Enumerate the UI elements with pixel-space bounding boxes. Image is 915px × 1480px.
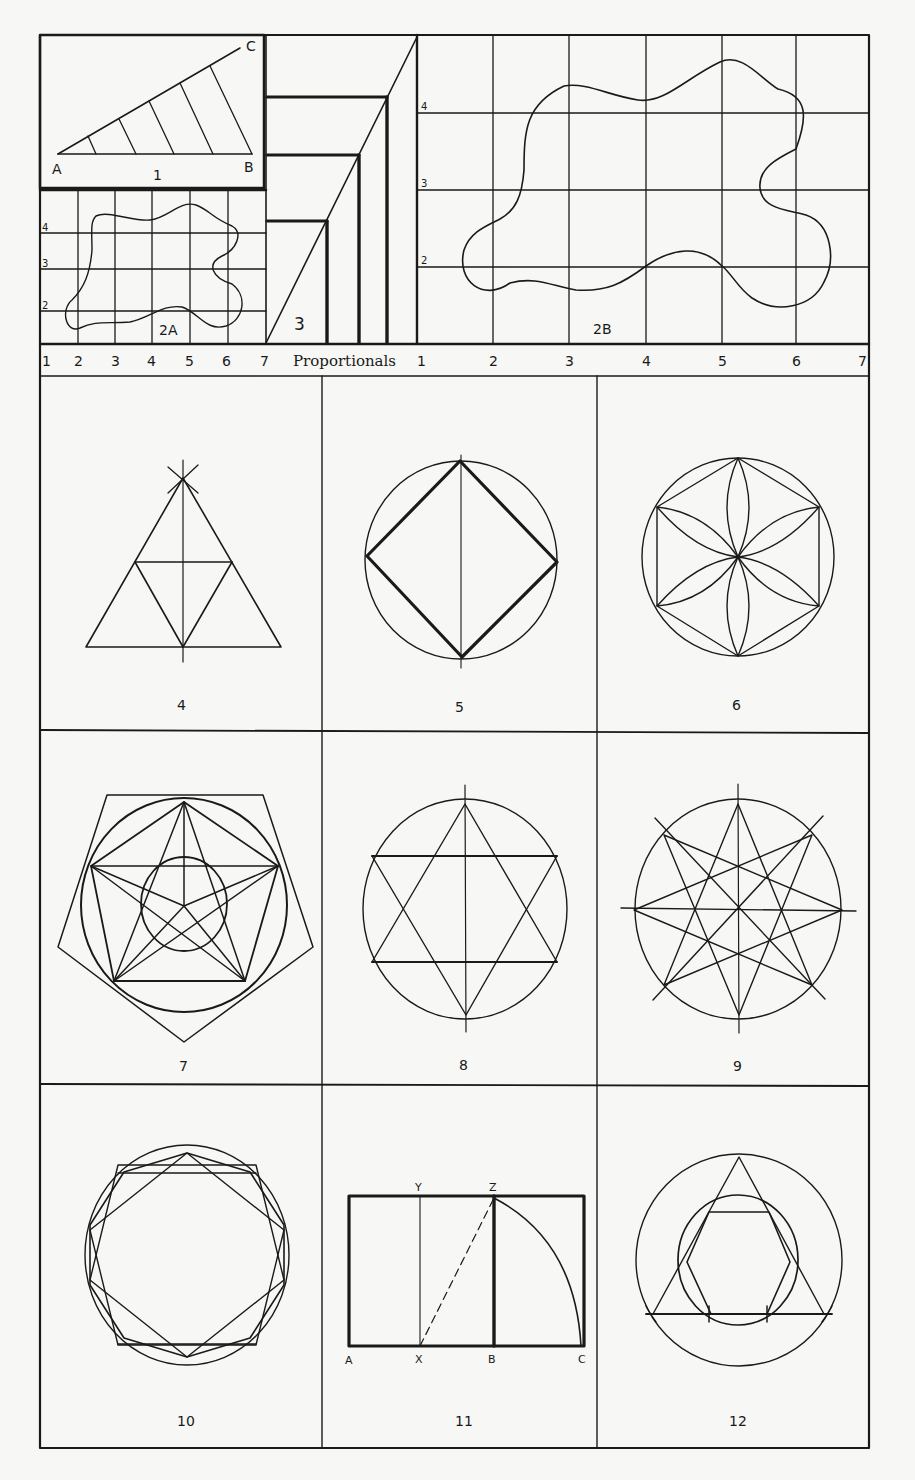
scale-left-7: 7 <box>260 353 269 369</box>
figure-6-rosette: 6 <box>642 458 834 713</box>
figure-3-panel: 3 <box>266 35 417 343</box>
scale-left-5: 5 <box>185 353 194 369</box>
scale-left-4: 4 <box>147 353 156 369</box>
fig6-number: 6 <box>732 697 741 713</box>
scale-right-2: 2 <box>489 353 498 369</box>
fig8-number: 8 <box>459 1057 468 1073</box>
figure-11-golden-rectangle: A X B C Y Z 11 <box>345 1181 586 1429</box>
scale-title: Proportionals <box>293 352 396 370</box>
fig10-number: 10 <box>177 1413 195 1429</box>
fig11-point-z: Z <box>489 1181 497 1194</box>
fig2b-row-2: 2 <box>421 255 427 266</box>
fig1-point-a: A <box>52 161 62 177</box>
scale-right-1: 1 <box>417 353 426 369</box>
figure-12-nested: 12 <box>636 1154 842 1429</box>
scale-right-7: 7 <box>858 353 867 369</box>
fig2b-number: 2B <box>593 321 612 337</box>
fig2b-row-3: 3 <box>421 178 427 189</box>
scale-left-3: 3 <box>111 353 120 369</box>
figure-8-hexagram: 8 <box>363 785 567 1073</box>
fig3-number: 3 <box>294 314 305 334</box>
scale-right-4: 4 <box>642 353 651 369</box>
scale-right-6: 6 <box>792 353 801 369</box>
scale-left-6: 6 <box>222 353 231 369</box>
fig2a-row-4: 4 <box>42 222 48 233</box>
fig5-number: 5 <box>455 699 464 715</box>
fig2a-row-3: 3 <box>42 258 48 269</box>
fig11-point-a: A <box>345 1354 353 1367</box>
scale-left-2: 2 <box>74 353 83 369</box>
proportionals-scale: 1 2 3 4 5 6 7 Proportionals 1 2 3 4 5 6 … <box>40 344 869 376</box>
fig4-number: 4 <box>177 697 186 713</box>
fig1-number: 1 <box>153 167 162 183</box>
figure-10-decagon: 10 <box>85 1145 289 1429</box>
figure-9-octagram: 9 <box>621 784 856 1074</box>
fig1-point-c: C <box>246 38 256 54</box>
scale-right-5: 5 <box>718 353 727 369</box>
figure-7-pentagram: 7 <box>58 795 313 1074</box>
fig2a-number: 2A <box>159 322 178 338</box>
fig11-number: 11 <box>455 1413 473 1429</box>
fig11-point-x: X <box>415 1353 423 1366</box>
geometry-plate: A B C 1 4 3 2 2A 3 <box>0 0 915 1480</box>
scale-right-3: 3 <box>565 353 574 369</box>
fig11-point-y: Y <box>414 1181 422 1194</box>
fig7-number: 7 <box>179 1058 188 1074</box>
fig9-number: 9 <box>733 1058 742 1074</box>
fig11-point-c: C <box>578 1353 586 1366</box>
scale-left-1: 1 <box>42 353 51 369</box>
figure-1-panel: A B C 1 <box>40 35 264 188</box>
fig2b-row-4: 4 <box>421 101 427 112</box>
fig12-number: 12 <box>729 1413 747 1429</box>
fig2a-row-2: 2 <box>42 300 48 311</box>
figure-2a-panel: 4 3 2 2A <box>40 190 266 343</box>
figure-2b-panel: 4 3 2 2B <box>417 35 869 343</box>
figure-4-triangle: 4 <box>86 460 281 713</box>
plate-frame <box>40 35 869 1448</box>
fig1-point-b: B <box>244 159 254 175</box>
figure-5-square-in-circle: 5 <box>365 455 557 715</box>
fig11-point-b: B <box>488 1353 496 1366</box>
